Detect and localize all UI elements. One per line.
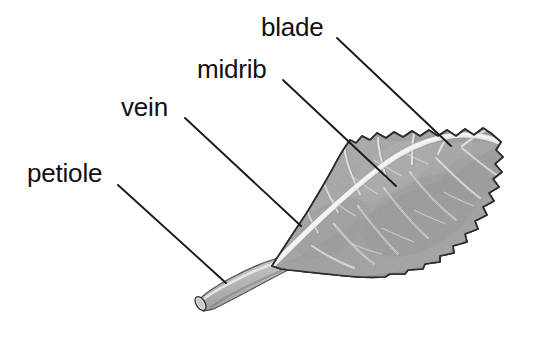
leader-line-petiole xyxy=(118,185,226,283)
label-vein: vein xyxy=(121,94,168,120)
blade-texture xyxy=(260,120,520,285)
label-blade: blade xyxy=(261,14,324,40)
leader-line-blade xyxy=(337,38,451,146)
blade-group xyxy=(260,120,520,285)
label-midrib: midrib xyxy=(197,56,267,82)
label-petiole: petiole xyxy=(27,160,102,186)
leader-line-vein xyxy=(185,118,301,226)
leaf-diagram: blade midrib vein petiole xyxy=(0,0,538,340)
